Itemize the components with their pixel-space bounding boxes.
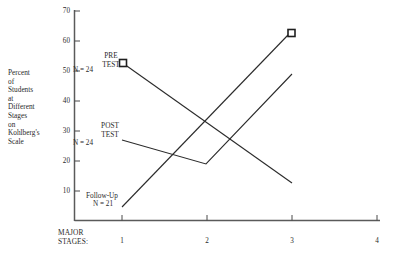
y-axis-ticks [75, 11, 81, 191]
x-tick-label-3: 3 [286, 237, 298, 245]
x-tick-label-4: 4 [371, 237, 383, 245]
kohlberg-stages-line-chart: Percent of Students at Different Stages … [0, 0, 393, 253]
y-tick-label-10: 10 [54, 187, 70, 195]
x-axis-title: MAJOR STAGES: [58, 229, 88, 246]
y-tick-label-40: 40 [54, 97, 70, 105]
series-marker-follow-up-open-square [288, 30, 295, 37]
series-label-post-test: POST TEST [95, 122, 125, 139]
series-line-pre-test [124, 64, 292, 183]
y-tick-label-70: 70 [54, 7, 70, 15]
y-tick-label-20: 20 [54, 157, 70, 165]
series-line-follow-up [122, 35, 288, 207]
y-tick-label-50: 50 [54, 67, 70, 75]
series-n-post-test: N = 24 [73, 139, 93, 147]
y-tick-label-60: 60 [54, 37, 70, 45]
x-tick-label-1: 1 [116, 237, 128, 245]
y-axis-title: Percent of Students at Different Stages … [8, 69, 56, 146]
series-n-follow-up: N = 21 [93, 200, 113, 208]
series-n-pre-test: N = 24 [73, 66, 93, 74]
x-tick-label-2: 2 [201, 237, 213, 245]
x-axis-ticks [122, 215, 377, 221]
y-tick-label-30: 30 [54, 127, 70, 135]
series-label-pre-test: PRE TEST [96, 52, 126, 69]
